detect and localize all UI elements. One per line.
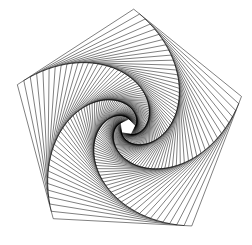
- whirling-pentagon-spiral-svg: [0, 0, 252, 245]
- figure-canvas: [0, 0, 252, 245]
